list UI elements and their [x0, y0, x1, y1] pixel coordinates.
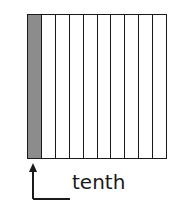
- tenth-label: tenth: [72, 172, 125, 192]
